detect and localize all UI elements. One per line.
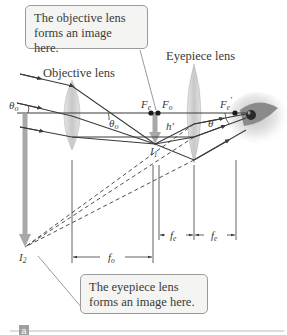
eye-icon bbox=[228, 92, 287, 144]
bottom-callout: The eyepiece lens forms an image here. bbox=[80, 274, 208, 314]
top-callout-text: The objective lens forms an image here. bbox=[34, 11, 126, 55]
focal-point-fe-prime bbox=[232, 110, 237, 115]
fo-label: Fo bbox=[161, 98, 173, 112]
bottom-callout-pointer bbox=[38, 256, 82, 308]
virtual-rays bbox=[25, 124, 194, 247]
dimension-guides bbox=[72, 160, 236, 263]
fe-label: Fe bbox=[140, 98, 152, 112]
theta-o-label-left: θo bbox=[9, 99, 18, 113]
fo-dimension-label: fo bbox=[108, 251, 115, 265]
theta-o-label-right: θo bbox=[109, 117, 118, 131]
eyepiece-lens-label: Eyepiece lens bbox=[166, 49, 235, 63]
fe-dimension-label-2: fe bbox=[211, 229, 218, 243]
panel-label: a bbox=[22, 326, 27, 335]
image-i2-arrow bbox=[19, 114, 31, 247]
top-callout: The objective lens forms an image here. bbox=[25, 5, 148, 49]
bottom-callout-text: The eyepiece lens forms an image here. bbox=[89, 280, 195, 309]
i1-label: I1 bbox=[149, 145, 157, 159]
fe-dimension-label-1: fe bbox=[170, 229, 177, 243]
focal-point-fo bbox=[155, 110, 160, 115]
i2-label: I2 bbox=[18, 251, 27, 265]
theta-label: θ bbox=[208, 117, 214, 129]
h-prime-label: h′ bbox=[166, 120, 175, 132]
image-i1-arrow bbox=[149, 114, 161, 144]
objective-lens-label: Objective lens bbox=[43, 66, 115, 80]
theta-o-arc-left bbox=[28, 105, 29, 113]
